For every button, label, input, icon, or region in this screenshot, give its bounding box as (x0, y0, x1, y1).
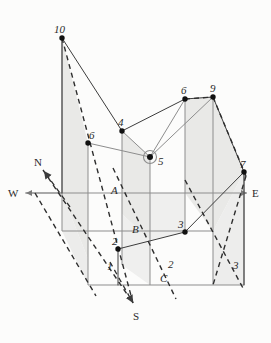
diagram-canvas: 10 6 4 5 6 9 7 3 2 A B C 1 2 3 N S E W (0, 0, 271, 343)
section-label-3: 3 (232, 259, 239, 271)
vertex-dot-4[interactable] (119, 128, 124, 133)
vertex-dot-9[interactable] (210, 94, 215, 99)
vertex-label-5: 5 (158, 155, 164, 167)
vertex-dot-5[interactable] (147, 154, 153, 160)
compass-label-south: S (133, 310, 139, 322)
section-label-A: A (110, 184, 118, 196)
vertex-dot-10[interactable] (59, 35, 64, 40)
vertex-dot-6a[interactable] (85, 140, 90, 145)
compass-label-west: W (8, 187, 19, 199)
vertex-dot-2a[interactable] (115, 246, 120, 251)
vertex-dot-6b[interactable] (182, 96, 187, 101)
vertex-label-10: 10 (54, 23, 66, 35)
section-label-B: B (132, 223, 139, 235)
vertex-label-2a: 2 (112, 235, 118, 247)
block-diagram-svg: 10 6 4 5 6 9 7 3 2 A B C 1 2 3 N S E W (0, 0, 271, 343)
vertex-dot-7[interactable] (241, 169, 246, 174)
section-label-C: C (160, 272, 168, 284)
compass-label-east: E (252, 187, 259, 199)
shaded-faces (62, 38, 244, 285)
section-label-2: 2 (168, 258, 174, 270)
vertex-label-6b: 6 (181, 84, 187, 96)
section-label-1: 1 (107, 260, 113, 272)
vertex-label-3a: 3 (177, 218, 184, 230)
vertex-label-4: 4 (118, 116, 124, 128)
vertex-label-9: 9 (210, 82, 216, 94)
vertex-label-6a: 6 (89, 129, 95, 141)
vertex-dot-3a[interactable] (182, 229, 187, 234)
vertex-label-7: 7 (240, 158, 246, 170)
compass-label-north: N (34, 156, 42, 168)
